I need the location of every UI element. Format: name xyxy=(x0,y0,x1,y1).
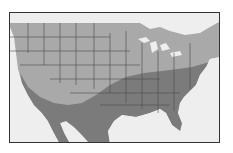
range-map xyxy=(10,13,220,143)
map-frame xyxy=(9,12,220,143)
